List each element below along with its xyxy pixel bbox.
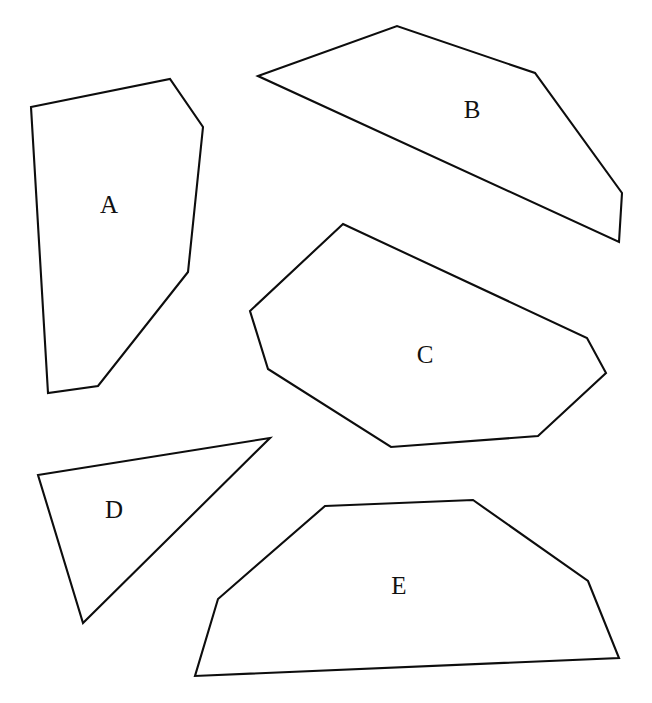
polygon-label-b: B: [464, 96, 481, 123]
polygon-figure-canvas: A B C D E: [0, 0, 652, 703]
polygon-label-c: C: [417, 341, 434, 368]
polygon-label-a: A: [100, 191, 118, 218]
polygon-label-e: E: [391, 572, 406, 599]
polygon-label-d: D: [105, 496, 123, 523]
